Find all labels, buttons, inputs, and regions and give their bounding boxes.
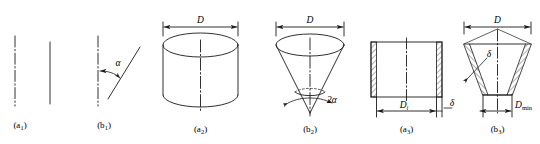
angle-alpha-arc-b1 — [100, 71, 120, 78]
caption-b3: (b3) — [491, 124, 505, 135]
caption-a3-open: (a — [400, 124, 407, 134]
caption-b1: (b1) — [97, 120, 111, 131]
caption-b2: (b2) — [303, 124, 317, 135]
caption-a2: (a2) — [194, 124, 207, 135]
apex-angle-2alpha-label-b2: 2α — [327, 95, 338, 105]
text-layer: α D D 2α Di δ D δ Dmin (a1) (b1) (a2) (b… — [13, 15, 532, 135]
inner-diameter-Di-label-a3: Di — [399, 100, 409, 111]
wall-thickness-delta-label-b3: δ — [487, 49, 492, 59]
figure-canvas: α D D 2α Di δ D δ Dmin (a1) (b1) (a2) (b… — [0, 0, 540, 144]
caption-a1-close: ) — [24, 120, 27, 130]
caption-a3: (a3) — [400, 124, 413, 135]
caption-b3-close: ) — [501, 124, 504, 134]
apex-construction-left-b3 — [464, 29, 498, 44]
cone-right-wall-hatch-b3 — [507, 44, 531, 95]
caption-b1-close: ) — [108, 120, 111, 130]
caption-a1-open: (a — [13, 120, 20, 130]
angle-alpha-label-b1: α — [116, 58, 122, 68]
shell-left-wall-hatch-a3 — [371, 42, 377, 97]
technical-figure: α D D 2α Di δ D δ Dmin (a1) (b1) (a2) (b… — [0, 0, 540, 144]
caption-b2-close: ) — [314, 124, 317, 134]
diameter-D-label-b3: D — [493, 15, 501, 25]
caption-a3-close: ) — [410, 124, 413, 134]
wall-thickness-delta-label-a3: δ — [450, 98, 455, 108]
minimum-diameter-Dmin-label-b3: Dmin — [514, 100, 533, 111]
diameter-D-label-a2: D — [196, 15, 204, 25]
shell-right-wall-hatch-a3 — [437, 42, 443, 97]
panel-a1 — [15, 36, 50, 106]
diameter-D-label-b2: D — [306, 15, 314, 25]
caption-a2-open: (a — [194, 124, 201, 134]
caption-a1: (a1) — [13, 120, 26, 131]
caption-a2-close: ) — [204, 124, 207, 134]
cone-left-edge-b2 — [276, 45, 310, 113]
panel-b1 — [98, 36, 140, 106]
panel-a2-cylinder — [163, 22, 238, 111]
panel-a3-cylinder-section — [371, 38, 452, 117]
apex-construction-right-b3 — [498, 29, 532, 44]
